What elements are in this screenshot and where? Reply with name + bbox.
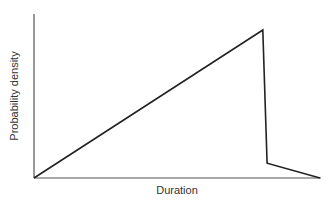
chart: Duration Probability density bbox=[0, 0, 329, 206]
density-curve bbox=[34, 30, 320, 178]
y-axis-label: Probability density bbox=[8, 51, 20, 141]
x-axis-label: Duration bbox=[156, 184, 198, 196]
